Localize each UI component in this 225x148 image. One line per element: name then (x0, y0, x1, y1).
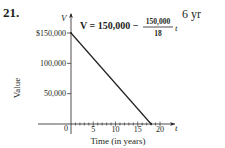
ticks: 510152050,000100,000$150,000 (36, 29, 164, 135)
equation-denominator: 18 (154, 29, 162, 38)
series (70, 32, 152, 125)
y-tick-label: 100,000 (40, 59, 66, 68)
y-axis-title: Value (12, 78, 22, 99)
y-tick-label: $150,000 (36, 29, 66, 38)
origin-label: 0 (64, 124, 68, 133)
data-point (70, 32, 72, 34)
y-axis-variable: V (61, 13, 68, 23)
y-tick-label: 50,000 (44, 89, 66, 98)
equation-lhs: V = 150,000 − (80, 20, 139, 31)
line-chart: 510152050,000100,000$150,000 Value Time … (0, 0, 225, 148)
series-line (71, 33, 151, 124)
equation-annotation: V = 150,000 − 150,000 18 t (80, 17, 178, 38)
equation-numerator: 150,000 (146, 17, 171, 26)
x-tick-label: 5 (91, 125, 95, 134)
x-tick-label: 20 (156, 125, 164, 134)
x-axis-variable: t (175, 123, 178, 133)
data-point (150, 123, 152, 125)
x-tick-label: 10 (112, 125, 120, 134)
x-tick-label: 15 (134, 125, 142, 134)
equation-variable: t (175, 23, 178, 33)
x-axis-title: Time (in years) (90, 136, 145, 146)
